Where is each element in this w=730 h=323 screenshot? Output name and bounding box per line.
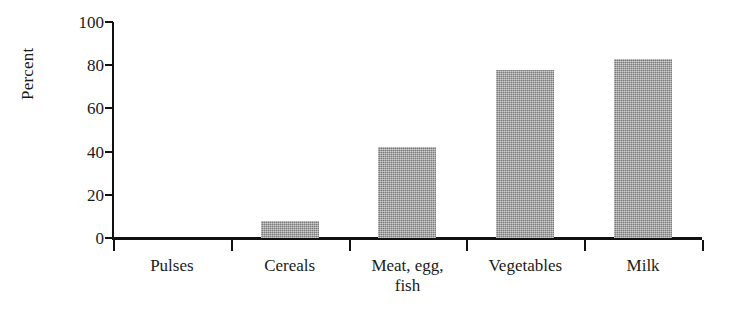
y-tick-mark [105,237,113,239]
y-tick-label: 20 [52,186,104,203]
plot-area [113,22,702,238]
y-tick-label: 40 [52,143,104,160]
x-axis-label-line: fish [337,276,479,296]
bar[interactable] [378,147,436,238]
y-tick-label: 0 [52,230,104,247]
x-tick-mark [702,240,704,251]
y-axis-tick-labels: 100 80 60 40 20 0 [46,0,104,323]
y-axis-title: Percent [18,0,42,100]
x-axis-category-labels: PulsesCerealsMeat, egg,fishVegetablesMil… [113,256,702,314]
bar-slot [113,22,231,238]
x-tick-mark [113,240,115,251]
bar[interactable] [261,221,319,238]
x-tick-mark [466,240,468,251]
bar-chart: Percent 100 80 60 40 20 0 PulsesCerealsM… [0,0,730,323]
bar-slot [231,22,349,238]
bar[interactable] [614,59,672,238]
x-tick-mark [349,240,351,251]
x-axis-label: Milk [572,256,714,276]
bar-slot [584,22,702,238]
y-tick-mark [105,151,113,153]
y-tick-label: 60 [52,100,104,117]
y-tick-mark [105,21,113,23]
y-tick-label: 80 [52,57,104,74]
y-tick-mark [105,107,113,109]
y-tick-mark [105,194,113,196]
y-tick-mark [105,64,113,66]
x-tick-mark [231,240,233,251]
bar[interactable] [496,70,554,238]
y-tick-label: 100 [52,14,104,31]
x-axis-label-line: Milk [572,256,714,276]
x-tick-mark [584,240,586,251]
bar-slot [349,22,467,238]
bar-slot [466,22,584,238]
